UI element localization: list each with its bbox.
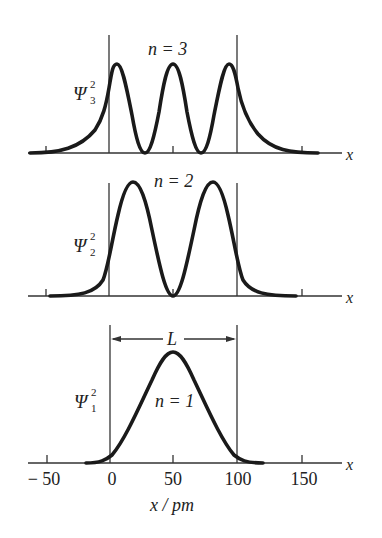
box-length-dimension: L xyxy=(111,329,236,349)
psi-label-n3: Ψ 2 3 xyxy=(73,78,96,106)
n-label-n2: n = 2 xyxy=(154,171,193,191)
panel-n2: n = 2 Ψ 2 2 x xyxy=(28,171,353,306)
panel-n3: n = 3 Ψ 2 3 x xyxy=(28,35,353,163)
svg-text:Ψ: Ψ xyxy=(73,83,88,104)
tick-label: − 50 xyxy=(28,469,61,489)
n-label-n3: n = 3 xyxy=(148,39,187,59)
svg-text:2: 2 xyxy=(90,230,96,242)
x-axis-label-n2: x xyxy=(345,289,353,306)
svg-text:1: 1 xyxy=(91,402,97,414)
svg-text:2: 2 xyxy=(91,386,97,398)
tick-label: 150 xyxy=(291,469,318,489)
psi2-squared-curve xyxy=(50,182,296,296)
psi-label-n1: Ψ 2 1 xyxy=(74,386,97,414)
n-label-n1: n = 1 xyxy=(155,391,194,411)
box-length-label: L xyxy=(166,329,177,349)
arrow-right-icon xyxy=(226,336,236,342)
tick-label: 0 xyxy=(108,469,117,489)
tick-label: 50 xyxy=(164,469,182,489)
x-axis-label-n3: x xyxy=(345,146,353,163)
x-axis-title: x / pm xyxy=(149,495,194,515)
psi3-squared-curve xyxy=(30,64,318,153)
svg-text:2: 2 xyxy=(90,246,96,258)
svg-text:2: 2 xyxy=(90,78,96,90)
x-tick-labels: − 50 0 50 100 150 xyxy=(28,469,318,489)
svg-text:Ψ: Ψ xyxy=(74,391,89,412)
psi-label-n2: Ψ 2 2 xyxy=(73,230,96,258)
arrow-left-icon xyxy=(111,336,121,342)
panel-n1: L n = 1 Ψ 2 1 x − 50 0 50 100 150 x / pm xyxy=(28,325,353,515)
svg-text:Ψ: Ψ xyxy=(73,235,88,256)
svg-text:3: 3 xyxy=(90,94,96,106)
particle-in-box-diagram: n = 3 Ψ 2 3 x n = 2 Ψ 2 2 x xyxy=(0,0,382,538)
x-axis-label-n1: x xyxy=(345,456,353,473)
tick-label: 100 xyxy=(225,469,252,489)
